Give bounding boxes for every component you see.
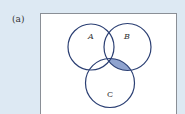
set-c-label: C <box>107 90 113 99</box>
set-a-circle <box>68 24 114 70</box>
set-b-circle <box>104 24 151 71</box>
set-b-label: B <box>123 32 130 41</box>
set-c-circle <box>86 59 135 108</box>
set-a-label: A <box>87 32 94 41</box>
venn-diagram: A B C <box>0 0 185 114</box>
